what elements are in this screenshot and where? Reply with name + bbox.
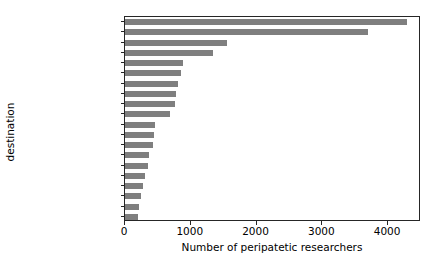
y-tick-mark <box>121 42 125 43</box>
y-tick-mark <box>121 206 125 207</box>
y-tick-mark <box>121 165 125 166</box>
bar-row <box>125 202 419 212</box>
bar <box>125 183 143 189</box>
y-tick-mark <box>121 113 125 114</box>
bar <box>125 193 141 199</box>
bar <box>125 81 178 87</box>
bar <box>125 111 170 117</box>
bar-row <box>125 120 419 130</box>
x-tick-mark <box>321 221 322 225</box>
bar <box>125 122 155 128</box>
bar-row <box>125 212 419 222</box>
y-tick-mark <box>121 185 125 186</box>
bar-series <box>125 17 419 220</box>
bar <box>125 214 138 220</box>
bar <box>125 60 183 66</box>
y-tick-mark <box>121 124 125 125</box>
x-axis-title: Number of peripatetic researchers <box>124 241 420 253</box>
bar <box>125 163 148 169</box>
bar-row <box>125 150 419 160</box>
bar <box>125 19 407 25</box>
bar-row <box>125 140 419 150</box>
bar <box>125 70 181 76</box>
y-tick-mark <box>121 83 125 84</box>
y-tick-mark <box>121 31 125 32</box>
bar-row <box>125 171 419 181</box>
y-tick-mark <box>121 175 125 176</box>
bar-row <box>125 68 419 78</box>
bar-row <box>125 38 419 48</box>
x-tick-label-2000: 2000 <box>242 226 269 237</box>
y-axis-title: destination <box>0 0 20 264</box>
bar <box>125 29 368 35</box>
y-tick-mark <box>121 72 125 73</box>
bar-row <box>125 58 419 68</box>
bar <box>125 132 154 138</box>
bar-row <box>125 191 419 201</box>
bar-chart-figure: destination Peoples R ChinaUSAEnglandGer… <box>0 0 433 264</box>
bar <box>125 91 176 97</box>
x-tick-mark <box>387 221 388 225</box>
y-tick-mark <box>121 52 125 53</box>
bar-row <box>125 99 419 109</box>
bar-row <box>125 109 419 119</box>
bar-row <box>125 17 419 27</box>
bar-row <box>125 79 419 89</box>
bar <box>125 152 149 158</box>
bar-row <box>125 130 419 140</box>
bar-row <box>125 161 419 171</box>
x-tick-mark <box>256 221 257 225</box>
x-tick-label-0: 0 <box>121 226 128 237</box>
bar <box>125 142 153 148</box>
x-tick-label-4000: 4000 <box>374 226 401 237</box>
y-tick-mark <box>121 103 125 104</box>
bar <box>125 101 175 107</box>
plot-area <box>124 16 420 221</box>
bar <box>125 40 227 46</box>
y-tick-mark <box>121 216 125 217</box>
y-tick-mark <box>121 144 125 145</box>
bar-row <box>125 89 419 99</box>
x-tick-label-3000: 3000 <box>308 226 335 237</box>
y-tick-mark <box>121 134 125 135</box>
bar <box>125 204 139 210</box>
bar <box>125 173 145 179</box>
y-tick-mark <box>121 195 125 196</box>
bar-row <box>125 48 419 58</box>
bar <box>125 50 213 56</box>
x-tick-mark <box>190 221 191 225</box>
y-tick-mark <box>121 62 125 63</box>
y-tick-mark <box>121 154 125 155</box>
bar-row <box>125 27 419 37</box>
bar-row <box>125 181 419 191</box>
x-tick-mark <box>124 221 125 225</box>
x-tick-label-1000: 1000 <box>176 226 203 237</box>
y-tick-mark <box>121 93 125 94</box>
y-tick-mark <box>121 21 125 22</box>
